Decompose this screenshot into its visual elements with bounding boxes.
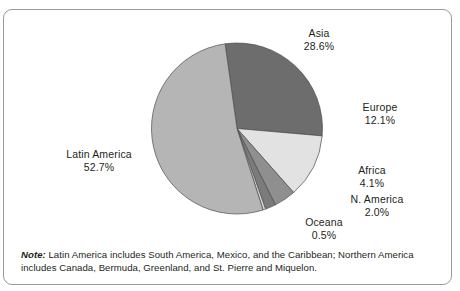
slice-label-europe: Europe 12.1%	[334, 101, 426, 126]
slice-label-oceana-name: Oceana	[305, 216, 343, 228]
slice-label-n-america-name: N. America	[351, 193, 404, 205]
pie-slice-asia	[225, 43, 322, 136]
slice-label-africa: Africa 4.1%	[336, 164, 408, 189]
slice-label-africa-name: Africa	[358, 164, 386, 176]
figure-note-text: Latin America includes South America, Me…	[21, 249, 414, 273]
slice-label-asia-name: Asia	[308, 27, 329, 39]
slice-label-africa-value: 4.1%	[336, 177, 408, 190]
slice-label-oceana-value: 0.5%	[286, 229, 362, 242]
slice-label-n-america: N. America 2.0%	[326, 193, 428, 218]
figure-note: Note: Latin America includes South Ameri…	[21, 248, 435, 274]
slice-label-asia-value: 28.6%	[276, 40, 362, 53]
figure-note-label: Note:	[21, 249, 46, 260]
pie-slice-group	[151, 43, 322, 214]
slice-label-asia: Asia 28.6%	[276, 27, 362, 52]
slice-label-europe-value: 12.1%	[334, 114, 426, 127]
slice-label-europe-name: Europe	[363, 101, 398, 113]
slice-label-latin-america: Latin America 52.7%	[47, 148, 151, 173]
slice-label-oceana: Oceana 0.5%	[286, 216, 362, 241]
pie-chart: Asia 28.6% Europe 12.1% Africa 4.1% N. A…	[4, 10, 453, 239]
slice-label-latin-america-name: Latin America	[66, 148, 132, 160]
figure-frame: Asia 28.6% Europe 12.1% Africa 4.1% N. A…	[3, 9, 452, 285]
slice-label-latin-america-value: 52.7%	[47, 161, 151, 174]
